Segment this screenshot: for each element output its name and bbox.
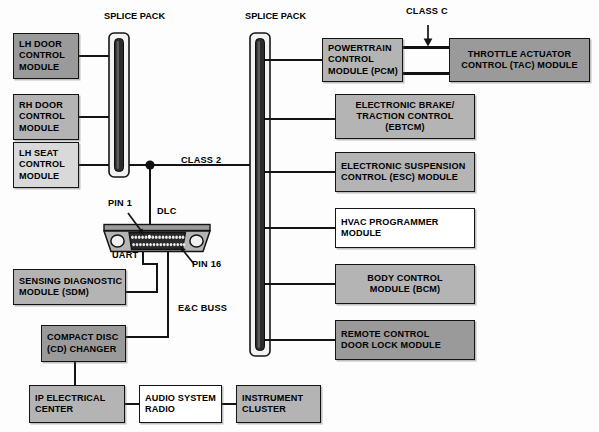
class-c-arrow [424, 25, 433, 47]
module-instrument-cluster[interactable]: INSTRUMENT CLUSTER [236, 385, 321, 423]
module-label-line: CONTROL (ESC) MODULE [341, 172, 469, 183]
module-label-line: ELECTRONIC SUSPENSION [341, 161, 469, 172]
module-label-line: TRACTION CONTROL [357, 111, 454, 122]
module-ebtcm[interactable]: ELECTRONIC BRAKE/ TRACTION CONTROL (EBTC… [335, 94, 475, 139]
module-label-line: CONTROL [328, 54, 397, 65]
ec-buss-line1: E&C [178, 303, 198, 313]
module-label-line: (EBTCM) [385, 122, 424, 133]
module-label-line: MODULE (SDM) [19, 287, 120, 298]
module-lh-door-control[interactable]: LH DOOR CONTROL MODULE [13, 33, 79, 79]
uart-label: UART [112, 250, 138, 262]
module-label-line: CONTROL [19, 159, 73, 170]
module-electronic-suspension-control[interactable]: ELECTRONIC SUSPENSION CONTROL (ESC) MODU… [335, 152, 475, 192]
dlc-label: DLC [157, 206, 176, 218]
pin16-label: PIN 16 [192, 259, 221, 271]
module-label-line: THROTTLE ACTUATOR [468, 49, 571, 60]
class2-label: CLASS 2 [181, 155, 221, 167]
module-remote-control-door-lock[interactable]: REMOTE CONTROL DOOR LOCK MODULE [335, 320, 475, 360]
module-throttle-actuator-control[interactable]: THROTTLE ACTUATOR CONTROL (TAC) MODULE [449, 38, 590, 82]
ec-buss-line2: BUSS [201, 303, 227, 313]
module-label-line: POWERTRAIN [328, 43, 397, 54]
module-body-control[interactable]: BODY CONTROL MODULE (BCM) [335, 264, 475, 304]
module-label-line: CLUSTER [242, 404, 315, 415]
module-label-line: INSTRUMENT [242, 393, 315, 404]
module-audio-system-radio[interactable]: AUDIO SYSTEM RADIO [139, 385, 222, 423]
module-sensing-diagnostic[interactable]: SENSING DIAGNOSTIC MODULE (SDM) [13, 269, 126, 305]
module-label-line: LH DOOR [19, 39, 73, 50]
network-diagram: SPLICE PACK SPLICE PACK CLASS 2 CLASS C … [0, 0, 599, 432]
splice-pack-right-line1: SPLICE [245, 11, 278, 21]
module-label-line: IP ELECTRICAL [35, 393, 119, 404]
splice-pack-left-caption: SPLICE PACK [104, 11, 165, 23]
module-label-line: (CD) CHANGER [47, 344, 120, 355]
module-label-line: MODULE [19, 123, 73, 134]
splice-pack-left-line1: SPLICE [104, 11, 137, 21]
module-label-line: COMPACT DISC [47, 332, 120, 343]
dlc-connector [104, 225, 210, 252]
module-label-line: CONTROL [19, 50, 73, 61]
ec-buss-label: E&C BUSS [178, 303, 227, 315]
module-hvac-programmer[interactable]: HVAC PROGRAMMER MODULE [335, 208, 475, 248]
pin1-label: PIN 1 [108, 198, 132, 210]
module-label-line: MODULE (BCM) [370, 284, 441, 295]
splice-pack-left [109, 33, 129, 177]
module-label-line: CONTROL (TAC) MODULE [461, 60, 577, 71]
module-label-line: HVAC PROGRAMMER [341, 217, 469, 228]
splice-pack-right [250, 33, 270, 356]
module-label-line: RH DOOR [19, 100, 73, 111]
module-label-line: SENSING DIAGNOSTIC [19, 276, 120, 287]
module-ip-electrical-center[interactable]: IP ELECTRICAL CENTER [29, 385, 125, 423]
module-label-line: BODY CONTROL [367, 273, 442, 284]
module-label-line: AUDIO SYSTEM [145, 393, 216, 404]
module-lh-seat-control[interactable]: LH SEAT CONTROL MODULE [13, 142, 79, 188]
module-label-line: MODULE [19, 62, 73, 73]
module-rh-door-control[interactable]: RH DOOR CONTROL MODULE [13, 94, 79, 140]
module-label-line: LH SEAT [19, 148, 73, 159]
class-c-bus [403, 46, 449, 75]
class-c-label: CLASS C [406, 6, 448, 18]
module-label-line: ELECTRONIC BRAKE/ [355, 100, 454, 111]
module-label-line: MODULE [341, 228, 469, 239]
module-label-line: RADIO [145, 404, 216, 415]
module-label-line: CENTER [35, 404, 119, 415]
module-label-line: MODULE [19, 171, 73, 182]
module-powertrain-control[interactable]: POWERTRAIN CONTROL MODULE (PCM) [322, 38, 403, 82]
splice-pack-right-caption: SPLICE PACK [245, 11, 306, 23]
splice-pack-right-line2: PACK [281, 11, 306, 21]
module-label-line: REMOTE CONTROL [341, 329, 469, 340]
module-label-line: CONTROL [19, 111, 73, 122]
splice-pack-left-line2: PACK [140, 11, 165, 21]
module-label-line: MODULE (PCM) [328, 66, 397, 77]
class2-junction-dot [145, 160, 154, 169]
module-label-line: DOOR LOCK MODULE [341, 340, 469, 351]
module-cd-changer[interactable]: COMPACT DISC (CD) CHANGER [41, 325, 126, 362]
